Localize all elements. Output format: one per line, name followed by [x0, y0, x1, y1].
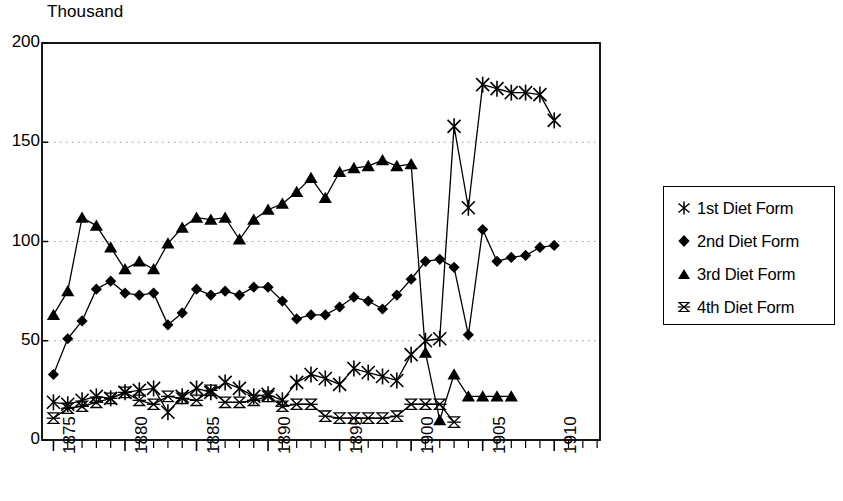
series-3-point-1882 — [147, 263, 160, 274]
series-2-point-1882 — [148, 288, 159, 299]
series-2-point-1881 — [134, 289, 145, 300]
series-2-point-1895 — [334, 301, 345, 312]
y-axis-tick-label: 200 — [0, 32, 40, 52]
series-3-point-1876 — [61, 285, 74, 296]
series-1-point-1898 — [376, 368, 389, 384]
series-2-point-1903 — [448, 262, 459, 273]
series-4-point-1883 — [161, 391, 175, 401]
series-1-point-1893 — [304, 366, 317, 382]
x-axis-tick-label: 1885 — [204, 416, 224, 454]
filled-triangle-marker-icon — [673, 264, 695, 284]
series-3-point-1880 — [118, 263, 131, 274]
series-3-point-1901 — [419, 346, 432, 357]
y-axis-tick-label: 150 — [0, 131, 40, 151]
series-2-point-1889 — [248, 282, 259, 293]
series-3-point-1884 — [176, 221, 189, 232]
series-1-point-1883 — [161, 404, 174, 420]
legend-label-2: 2nd Diet Form — [697, 232, 799, 251]
series-1-point-1892 — [290, 374, 303, 390]
series-3-point-1894 — [319, 192, 332, 203]
x-axis-tick-label: 1880 — [132, 416, 152, 454]
series-1-point-1895 — [333, 376, 346, 392]
series-1-point-1904 — [462, 200, 475, 216]
series-1-point-1910 — [548, 112, 561, 128]
legend-label-4: 4th Diet Form — [697, 298, 794, 317]
series-1-point-1906 — [490, 81, 503, 97]
series-3-point-1875 — [47, 309, 60, 320]
series-2-point-1875 — [48, 369, 59, 380]
legend-item-3[interactable]: 3rd Diet Form — [673, 259, 795, 289]
x-axis-tick-label: 1910 — [561, 416, 581, 454]
legend-label-3: 3rd Diet Form — [697, 265, 795, 284]
x-axis-tick-label: 1905 — [490, 416, 510, 454]
series-3-point-1903 — [447, 368, 460, 379]
filled-diamond-marker-icon — [673, 231, 695, 251]
series-3-point-1897 — [362, 160, 375, 171]
series-4-point-1882 — [147, 399, 161, 409]
series-4-point-1901 — [419, 399, 433, 409]
series-2-point-1906 — [491, 256, 502, 267]
series-3-point-1887 — [219, 211, 232, 222]
series-3-point-1889 — [247, 213, 260, 224]
series-3-point-1898 — [376, 154, 389, 165]
series-1-point-1894 — [319, 370, 332, 386]
series-4-point-1888 — [233, 397, 247, 407]
series-line-2 — [53, 230, 554, 375]
series-1-point-1885 — [190, 380, 203, 396]
series-3-point-1895 — [333, 166, 346, 177]
x-axis-tick-label: 1875 — [60, 416, 80, 454]
series-3-point-1879 — [104, 241, 117, 252]
series-2-point-1894 — [320, 309, 331, 320]
x-axis-tick-label: 1900 — [418, 416, 438, 454]
series-3-point-1878 — [90, 219, 103, 230]
series-2-point-1893 — [305, 309, 316, 320]
series-2-point-1905 — [477, 224, 488, 235]
series-4-point-1895 — [333, 413, 347, 423]
y-axis-tick-label: 50 — [0, 330, 40, 350]
series-4-point-1903 — [447, 417, 461, 427]
series-2-point-1902 — [434, 254, 445, 265]
series-4-point-1892 — [290, 399, 304, 409]
series-1-point-1887 — [219, 374, 232, 390]
series-3-point-1888 — [233, 233, 246, 244]
series-3-point-1890 — [261, 204, 274, 215]
series-1-point-1888 — [233, 380, 246, 396]
series-2-point-1878 — [91, 284, 102, 295]
series-2-point-1897 — [363, 295, 374, 306]
series-1-point-1905 — [476, 77, 489, 93]
legend-item-2[interactable]: 2nd Diet Form — [673, 226, 799, 256]
series-line-1 — [53, 85, 554, 413]
series-2-point-1909 — [534, 242, 545, 253]
series-3-point-1893 — [304, 172, 317, 183]
series-1-point-1900 — [405, 347, 418, 363]
series-2-point-1904 — [463, 329, 474, 340]
series-3-point-1881 — [133, 255, 146, 266]
chart-legend: 1st Diet Form 2nd Diet Form 3rd Diet For… — [663, 186, 835, 325]
series-2-point-1886 — [205, 289, 216, 300]
series-2-point-1908 — [520, 250, 531, 261]
series-1-point-1896 — [347, 361, 360, 377]
series-2-point-1885 — [191, 284, 202, 295]
series-2-point-1888 — [234, 289, 245, 300]
series-3-point-1885 — [190, 211, 203, 222]
legend-label-1: 1st Diet Form — [697, 199, 793, 218]
star-marker-icon — [673, 198, 695, 218]
series-2-point-1896 — [348, 291, 359, 302]
series-1-point-1903 — [448, 118, 461, 134]
series-3-point-1877 — [75, 211, 88, 222]
series-4-point-1898 — [376, 413, 390, 423]
series-2-point-1907 — [506, 252, 517, 263]
chart-page: Thousand 1st Diet Form 2nd Diet Form 3rd… — [0, 0, 843, 501]
series-3-point-1900 — [405, 158, 418, 169]
y-axis-tick-label: 100 — [0, 231, 40, 251]
series-1-point-1897 — [362, 365, 375, 381]
y-axis-tick-label: 0 — [0, 429, 40, 449]
legend-item-4[interactable]: 4th Diet Form — [673, 292, 794, 322]
series-2-point-1887 — [220, 286, 231, 297]
hourglass-marker-icon — [673, 297, 695, 317]
series-1-point-1899 — [390, 372, 403, 388]
x-axis-tick-label: 1890 — [275, 416, 295, 454]
legend-item-1[interactable]: 1st Diet Form — [673, 193, 793, 223]
x-axis-tick-label: 1895 — [347, 416, 367, 454]
